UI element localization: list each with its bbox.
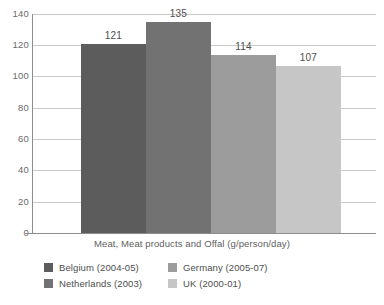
legend-label: Netherlands (2003) [59,278,142,289]
legend-item-netherlands[interactable]: Netherlands (2003) [44,278,168,289]
legend-label: UK (2000-01) [183,278,241,289]
legend-swatch-icon [168,279,177,288]
bar-germany[interactable] [211,55,276,233]
bar-value-label: 135 [146,8,211,19]
legend-row: Netherlands (2003) UK (2000-01) [44,278,344,294]
legend-item-uk[interactable]: UK (2000-01) [168,278,328,289]
plot-area: 140 120 100 80 60 40 20 0 [0,0,384,240]
legend-row: Belgium (2004-05) Germany (2005-07) [44,262,344,278]
bar-netherlands[interactable] [146,22,211,233]
bar-uk[interactable] [276,66,341,233]
legend-item-germany[interactable]: Germany (2005-07) [168,262,328,273]
bar-value-label: 121 [81,30,146,41]
bar-belgium[interactable] [81,44,146,233]
bar-value-label: 107 [276,52,341,63]
x-axis-line [25,233,376,234]
legend-label: Belgium (2004-05) [59,262,139,273]
legend-swatch-icon [44,279,53,288]
legend-item-belgium[interactable]: Belgium (2004-05) [44,262,168,273]
legend-label: Germany (2005-07) [183,262,268,273]
x-axis-title: Meat, Meat products and Offal (g/person/… [0,238,384,249]
legend-swatch-icon [168,263,177,272]
legend: Belgium (2004-05) Germany (2005-07) Neth… [44,262,344,294]
legend-swatch-icon [44,263,53,272]
bar-value-label: 114 [211,41,276,52]
bars-layer: 121 135 114 107 [0,0,384,240]
y-axis-line [32,14,33,234]
bar-chart: 140 120 100 80 60 40 20 0 [0,0,384,305]
